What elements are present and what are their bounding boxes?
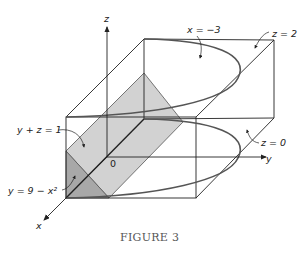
z-axis-label: z [103,13,110,24]
annotation-z-eq-2: z = 2 [271,28,297,39]
annotation-x-eq-minus-3: x = −3 [186,24,221,35]
annotation-y-plus-z-eq-1: y + z = 1 [16,124,62,135]
figure-caption: FIGURE 3 [120,231,179,244]
figure-3d-diagram: z y x 0 x = −3 z = 2 z = 0 y + z = 1 y =… [0,0,303,254]
x-axis-label: x [35,220,42,231]
y-axis-label: y [265,153,272,164]
annotation-y-eq-9-minus-x2: y = 9 − x² [7,185,57,196]
origin-label: 0 [110,158,116,169]
annotation-z-eq-0: z = 0 [260,137,286,148]
